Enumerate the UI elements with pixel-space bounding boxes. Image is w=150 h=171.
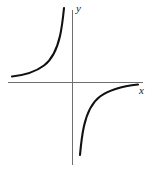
x-axis-label: x <box>138 84 144 96</box>
hyperbola-figure: y x <box>0 0 150 171</box>
graph-canvas: y x <box>0 0 150 171</box>
hyperbola-branch-quadrant-4 <box>80 85 138 156</box>
hyperbola-branch-quadrant-2 <box>12 8 64 77</box>
y-axis-label: y <box>75 2 81 14</box>
